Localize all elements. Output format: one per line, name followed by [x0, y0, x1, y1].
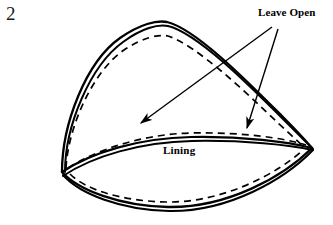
- leave-open-lower-arrow-line: [247, 29, 278, 128]
- lower-panel-dashed-edge: [70, 150, 303, 202]
- pattern-diagram: [0, 0, 333, 225]
- step-number: 2: [6, 4, 16, 24]
- lower-panel-inner-dashed: [70, 150, 303, 202]
- lower-panel-outer-edge-b: [63, 150, 313, 211]
- leave-open-lower-arrow: [247, 29, 278, 128]
- figure-root: 2 Leave Open Lining: [0, 0, 333, 225]
- lining-label: Lining: [163, 144, 195, 157]
- leave-open-label: Leave Open: [258, 6, 316, 19]
